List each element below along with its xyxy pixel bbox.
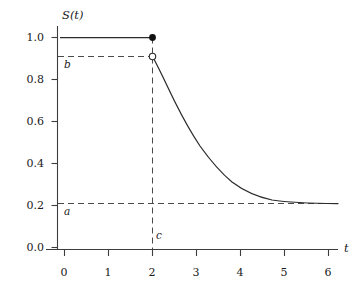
y-tick-label-0-2: 0.2	[10, 199, 44, 212]
x-tick-label-0: 0	[52, 266, 76, 279]
open-point-marker	[149, 53, 155, 59]
x-tick-label-3: 3	[184, 266, 208, 279]
annotation-label-b: b	[64, 58, 71, 70]
x-axis-label: t	[344, 241, 349, 255]
x-tick-label-6: 6	[316, 266, 340, 279]
y-tick-label-0-0: 0.0	[10, 241, 44, 254]
x-tick-label-1: 1	[96, 266, 120, 279]
y-tick-label-1-0: 1.0	[10, 31, 44, 44]
y-tick-label-0-4: 0.4	[10, 157, 44, 170]
y-tick-label-0-6: 0.6	[10, 115, 44, 128]
annotation-label-c: c	[156, 229, 162, 241]
x-tick-label-5: 5	[272, 266, 296, 279]
x-tick-label-4: 4	[228, 266, 252, 279]
chart-figure: 1.0 0.8 0.6 0.4 0.2 0.0 0 1 2 3 4 5 6 S(…	[0, 0, 361, 300]
plot-area	[0, 0, 361, 300]
x-tick-label-2: 2	[140, 266, 164, 279]
y-axis-label: S(t)	[62, 8, 83, 22]
annotation-label-a: a	[64, 205, 70, 217]
closed-point-marker	[149, 34, 156, 41]
y-tick-label-0-8: 0.8	[10, 73, 44, 86]
curve-decay	[153, 57, 339, 204]
